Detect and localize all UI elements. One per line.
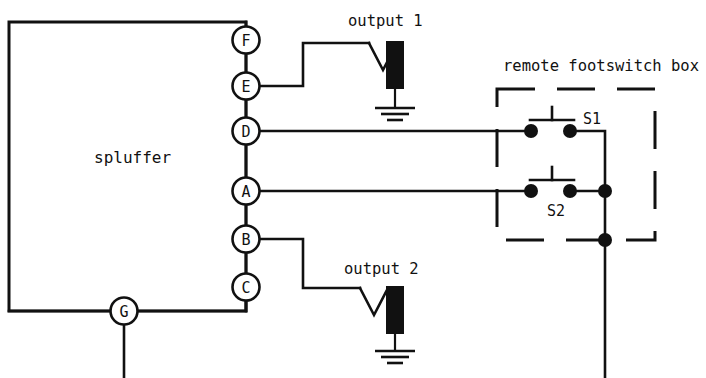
switch-s1[interactable] bbox=[524, 107, 577, 138]
terminal-F-label: F bbox=[241, 32, 250, 50]
terminal-G-label: G bbox=[119, 303, 128, 321]
terminal-C[interactable]: C bbox=[233, 274, 260, 301]
wire-s2-to-common-and-out bbox=[570, 191, 605, 378]
terminal-E[interactable]: E bbox=[233, 73, 260, 100]
footswitch-box-outline bbox=[497, 89, 655, 240]
terminal-G[interactable]: G bbox=[111, 298, 138, 325]
s1-terminal-left bbox=[524, 124, 538, 138]
s2-terminal-left bbox=[524, 184, 538, 198]
output-2-connector bbox=[360, 286, 415, 363]
output-2-shell bbox=[386, 286, 404, 334]
terminal-B-label: B bbox=[241, 231, 250, 249]
switch-s2[interactable] bbox=[524, 167, 577, 198]
terminal-B[interactable]: B bbox=[233, 226, 260, 253]
switch-s2-label: S2 bbox=[547, 202, 565, 220]
output-1-wire bbox=[258, 43, 369, 86]
terminal-E-label: E bbox=[241, 78, 250, 96]
switch-s1-label: S1 bbox=[583, 110, 601, 128]
footswitch-box-label: remote footswitch box bbox=[503, 57, 699, 75]
circuit-svg: spluffer output 1 bbox=[0, 0, 706, 378]
circuit-diagram: spluffer output 1 bbox=[0, 0, 706, 378]
wire-s1-to-common bbox=[570, 131, 605, 191]
junction-dot-box-exit bbox=[598, 233, 612, 247]
terminal-D-label: D bbox=[241, 123, 250, 141]
terminal-A-label: A bbox=[241, 183, 250, 201]
terminal-C-label: C bbox=[241, 279, 250, 297]
terminal-F[interactable]: F bbox=[233, 27, 260, 54]
output-1-shell bbox=[386, 41, 404, 89]
spluffer-label: spluffer bbox=[94, 148, 171, 167]
terminal-A[interactable]: A bbox=[233, 178, 260, 205]
output-1-connector bbox=[369, 41, 415, 120]
terminal-D[interactable]: D bbox=[233, 118, 260, 145]
junction-dot-common-upper bbox=[598, 184, 612, 198]
output-1-label: output 1 bbox=[348, 12, 423, 30]
output-2-label: output 2 bbox=[344, 260, 419, 278]
